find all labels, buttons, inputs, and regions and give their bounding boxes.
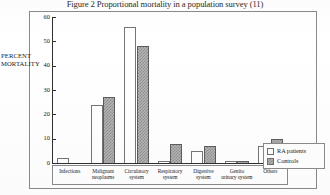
y-tick-label: 30 [36,87,50,93]
x-axis-line [52,163,287,164]
bar-ra-patients [91,105,103,163]
bar-ra-patients [124,27,136,163]
legend-swatch-ra-patients [267,148,274,155]
bar-group [53,17,86,163]
category-label: Malignantneoplasms [86,168,119,180]
y-tick-label: 10 [36,135,50,141]
legend-label-controls: Controls [277,158,298,165]
category-label-line: system [120,174,153,180]
category-label: Circulatorysystem [120,168,153,180]
figure-caption: Figure 2 Proportional mortality in a pop… [0,0,330,9]
category-label-line: urinary system [220,174,253,180]
y-tick-label: 50 [36,38,50,44]
bar-controls [170,144,182,163]
legend-item-ra-patients: RA patients [267,147,324,157]
bar-group-bars [220,17,253,163]
bar-ra-patients [57,158,69,163]
legend-label-ra-patients: RA patients [277,148,306,155]
category-label: Genitourinary system [220,168,253,180]
bar-controls [204,146,216,163]
category-label: Respiratorysystem [153,168,186,180]
chart-legend: RA patients Controls [263,143,325,169]
y-tick-label: 20 [36,111,50,117]
bar-controls [103,97,115,163]
category-label-line: system [187,174,220,180]
plot-area [53,17,287,163]
y-tick-mark [52,163,56,164]
bar-group [86,17,119,163]
bar-controls [237,161,249,163]
y-axis-title-line1: PERCENT [1,52,41,60]
category-label: Infections [53,168,86,174]
bar-group [220,17,253,163]
y-axis-title-line2: MORTALITY [1,60,41,68]
bar-group-bars [120,17,153,163]
y-tick-label: 0 [36,160,50,166]
bar-group-bars [86,17,119,163]
bar-ra-patients [158,161,170,163]
bar-group [153,17,186,163]
y-tick-label: 40 [36,62,50,68]
category-label: Digestivesystem [187,168,220,180]
bar-controls [137,46,149,163]
legend-item-controls: Controls [267,157,324,167]
legend-swatch-controls [267,158,274,165]
y-tick-label: 60 [36,14,50,20]
bar-group [254,17,287,163]
bar-ra-patients [191,151,203,163]
category-label-line: neoplasms [86,174,119,180]
category-label-strip: InfectionsMalignantneoplasmsCirculatorys… [52,165,288,185]
category-label-line: Infections [53,168,86,174]
figure-container: Figure 2 Proportional mortality in a pop… [0,0,330,195]
bar-ra-patients [225,161,237,163]
y-axis-title: PERCENT MORTALITY [1,52,41,67]
bar-group-bars [187,17,220,163]
bar-group-bars [53,17,86,163]
category-label-line: system [153,174,186,180]
bar-group [187,17,220,163]
bar-group [120,17,153,163]
bar-group-bars [254,17,287,163]
bar-group-bars [153,17,186,163]
